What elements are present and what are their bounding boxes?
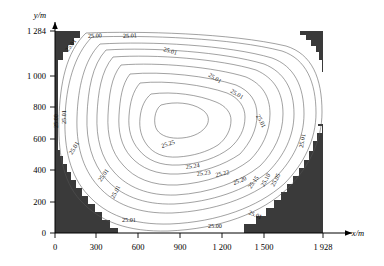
x-tick-label: 1 500 [254, 242, 273, 252]
x-tick-label: 1 928 [313, 242, 332, 252]
contour-label: 25.01 [60, 110, 67, 124]
y-tick-label: 0 [42, 228, 46, 238]
y-axis-label: y/m [33, 10, 46, 20]
y-tick-label: 400 [33, 165, 46, 175]
x-tick-labels: 0 300 600 900 1 200 1 500 1 928 [53, 242, 333, 252]
x-tick-label: 900 [174, 242, 187, 252]
y-tick-labels: 0 200 400 600 800 1 000 1 284 [27, 26, 47, 238]
contour-label: 25.01 [122, 216, 136, 223]
y-tick-label: 1 000 [27, 71, 46, 81]
x-tick-label: 600 [132, 242, 145, 252]
y-tick-label: 600 [33, 134, 46, 144]
contour-figure: 25.00 25.01 25.01 25.01 25.01 25.01 25.0… [0, 0, 384, 266]
contour-label: 25.01 [123, 32, 137, 39]
y-ticks [50, 31, 55, 233]
contour-label: 25.00 [88, 32, 102, 39]
x-tick-label: 1 200 [212, 242, 231, 252]
x-axis-label: x/m [351, 228, 364, 238]
y-axis-arrow [52, 22, 58, 29]
x-tick-label: 300 [90, 242, 103, 252]
x-tick-label: 0 [53, 242, 57, 252]
x-ticks [55, 233, 323, 238]
y-tick-label: 1 284 [27, 26, 47, 36]
left-edge-notch [58, 144, 63, 150]
right-edge-notch [317, 118, 323, 124]
contour-plot-svg: 25.00 25.01 25.01 25.01 25.01 25.01 25.0… [0, 0, 384, 266]
contour-label: 25.00 [208, 222, 222, 229]
y-tick-label: 200 [33, 197, 46, 207]
y-tick-label: 800 [33, 102, 46, 112]
